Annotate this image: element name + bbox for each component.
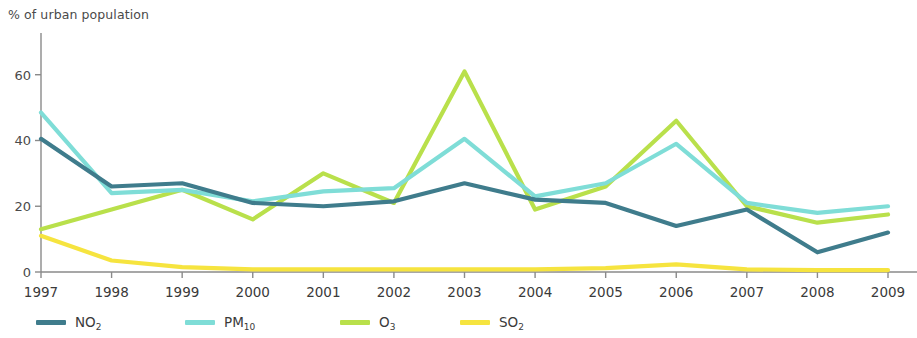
x-tick-label: 2002 [377, 284, 411, 300]
x-axis-tick-labels: 1997199819992000200120022003200420052006… [24, 284, 905, 300]
legend-swatch-icon [36, 320, 66, 325]
legend-label: O3 [379, 314, 395, 330]
legend-swatch-icon [340, 320, 370, 325]
x-tick-label: 2009 [871, 284, 905, 300]
legend-label: SO2 [499, 314, 524, 330]
x-tick-label: 1997 [24, 284, 58, 300]
legend-swatch-icon [460, 320, 490, 325]
x-tick-label: 1999 [165, 284, 199, 300]
series-lines [41, 71, 888, 270]
chart-legend: NO2PM10O3SO2 [0, 310, 917, 338]
legend-item-so2[interactable]: SO2 [460, 310, 524, 334]
x-tick-label: 2003 [447, 284, 481, 300]
line-chart-plot: 0204060 19971998199920002001200220032004… [0, 0, 917, 338]
x-axis [41, 272, 917, 278]
x-tick-label: 2005 [588, 284, 622, 300]
y-axis: 0204060 [14, 33, 41, 280]
x-tick-label: 2008 [800, 284, 834, 300]
series-line-pm10 [41, 113, 888, 213]
x-tick-label: 1998 [94, 284, 128, 300]
x-tick-label: 2006 [659, 284, 693, 300]
legend-item-o3[interactable]: O3 [340, 310, 395, 334]
x-tick-label: 2007 [730, 284, 764, 300]
y-tick-label: 0 [23, 265, 31, 280]
chart-container: % of urban population 0204060 1997199819… [0, 0, 917, 338]
legend-label: PM10 [224, 314, 255, 330]
x-tick-label: 2004 [518, 284, 552, 300]
legend-item-no2[interactable]: NO2 [36, 310, 101, 334]
legend-label: NO2 [75, 314, 101, 330]
y-tick-label: 40 [14, 133, 31, 148]
legend-swatch-icon [185, 320, 215, 325]
legend-item-pm10[interactable]: PM10 [185, 310, 255, 334]
y-tick-label: 20 [14, 199, 31, 214]
x-tick-label: 2000 [236, 284, 270, 300]
x-tick-label: 2001 [306, 284, 340, 300]
series-line-so2 [41, 236, 888, 270]
y-tick-label: 60 [14, 68, 31, 83]
